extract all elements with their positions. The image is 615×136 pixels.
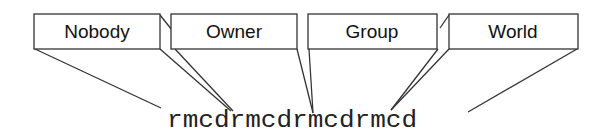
group-box-nobody: Nobody xyxy=(34,14,160,49)
permission-bit-string: rmcdrmcdrmcdrmcd xyxy=(167,107,417,134)
permissions-diagram: Nobody Owner Group World rmcdrmcdrmcdrmc… xyxy=(0,0,615,136)
group-label-world: World xyxy=(488,21,537,42)
group-label-group: Group xyxy=(346,21,399,42)
group-label-owner: Owner xyxy=(206,21,263,42)
group-box-world: World xyxy=(449,14,578,49)
group-label-nobody: Nobody xyxy=(64,21,130,42)
group-box-owner: Owner xyxy=(171,14,297,49)
group-box-group: Group xyxy=(308,14,437,49)
